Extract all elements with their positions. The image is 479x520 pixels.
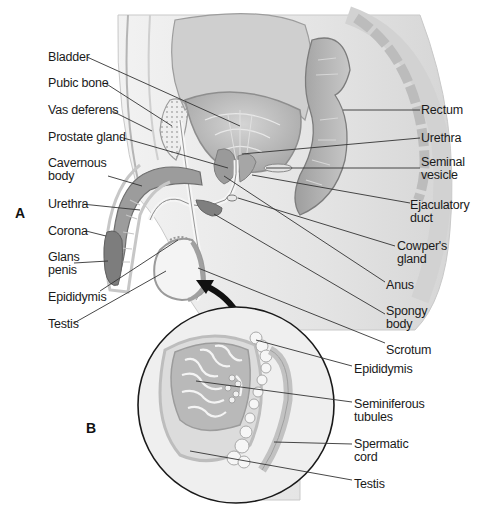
label-urethra-right: Urethra xyxy=(421,132,461,145)
label-cowpers-gland: Cowper's gland xyxy=(397,240,447,266)
label-epididymis-left: Epididymis xyxy=(48,291,106,304)
label-ejaculatory-duct: Ejaculatory duct xyxy=(410,199,470,225)
panel-a-marker: A xyxy=(15,205,25,221)
label-vas-deferens: Vas deferens xyxy=(48,104,118,117)
label-glans-penis: Glans penis xyxy=(48,251,80,277)
label-rectum: Rectum xyxy=(421,104,463,117)
label-spermatic-cord: Spermatic cord xyxy=(354,438,408,464)
label-anus: Anus xyxy=(386,279,414,292)
label-corona: Corona xyxy=(48,225,88,238)
label-prostate-gland: Prostate gland xyxy=(48,131,126,144)
label-epididymis-inset: Epididymis xyxy=(354,363,412,376)
testis-inset xyxy=(138,307,334,503)
label-bladder: Bladder xyxy=(48,51,90,64)
label-cavernous-body: Cavernous body xyxy=(48,157,107,183)
label-pubic-bone: Pubic bone xyxy=(48,77,109,90)
label-urethra-left: Urethra xyxy=(48,198,88,211)
label-testis-left: Testis xyxy=(48,318,79,331)
panel-b-marker: B xyxy=(86,420,96,436)
label-seminal-vesicle: Seminal vesicle xyxy=(421,156,465,182)
label-spongy-body: Spongy body xyxy=(386,305,427,331)
label-seminiferous-tubules: Seminiferous tubules xyxy=(354,398,425,424)
label-scrotum: Scrotum xyxy=(386,344,431,357)
label-testis-inset: Testis xyxy=(354,478,385,491)
anatomy-figure: A B Bladder Pubic bone Vas deferens Pros… xyxy=(0,0,479,520)
